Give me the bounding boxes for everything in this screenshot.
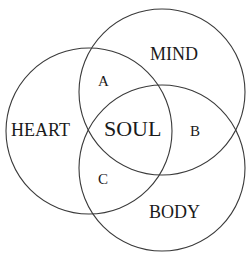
label-b: B (190, 123, 200, 139)
label-body: BODY (149, 202, 200, 222)
label-soul: SOUL (104, 116, 161, 141)
label-a: A (98, 73, 109, 89)
label-mind: MIND (150, 44, 198, 64)
venn-diagram: MIND HEART BODY SOUL A B C (0, 0, 252, 256)
label-heart: HEART (11, 120, 70, 140)
label-c: C (98, 171, 108, 187)
body-circle (79, 85, 245, 251)
